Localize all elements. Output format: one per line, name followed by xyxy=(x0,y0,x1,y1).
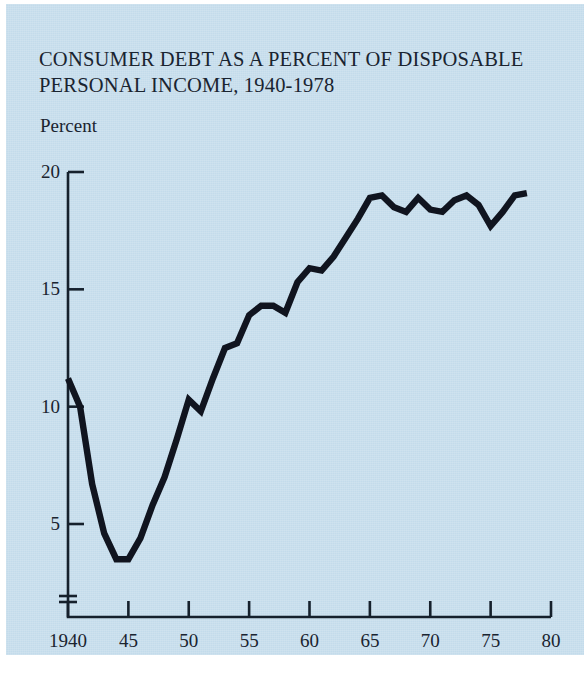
x-tick-label: 80 xyxy=(511,631,584,650)
y-tick-label: 20 xyxy=(16,162,60,181)
y-tick-label: 5 xyxy=(16,514,60,533)
chart-tick-marks xyxy=(68,172,551,617)
y-tick-label: 10 xyxy=(16,397,60,416)
data-line-consumer-debt xyxy=(68,193,527,559)
chart-figure: CONSUMER DEBT AS A PERCENT OF DISPOSABLE… xyxy=(6,4,584,655)
y-tick-label: 15 xyxy=(16,279,60,298)
line-chart-plot xyxy=(6,4,584,655)
